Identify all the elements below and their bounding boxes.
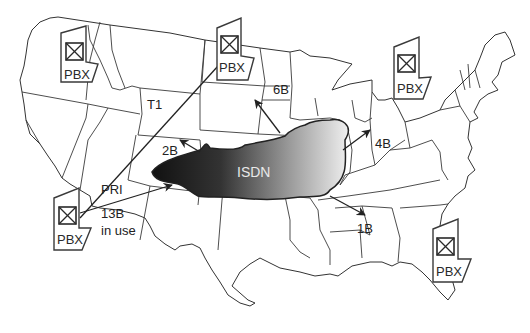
6b-label: 6B xyxy=(273,82,289,97)
us-map-canvas: ISDN T1 PRI 13B in use 2B 6B 4B 1B PBX P… xyxy=(0,0,530,333)
pbx-label: PBX xyxy=(219,60,245,75)
isdn-label: ISDN xyxy=(237,164,270,180)
2b-link-arrow xyxy=(180,140,200,152)
pri-label: PRI xyxy=(101,182,123,197)
pri-link-arrow xyxy=(80,185,172,213)
pbx-site-north-dakota: PBX xyxy=(217,18,254,80)
pbx-label: PBX xyxy=(436,264,462,279)
1b-label: 1B xyxy=(357,221,373,236)
pbx-site-pacific-northwest: PBX xyxy=(61,26,98,82)
pbx-site-california: PBX xyxy=(54,188,91,250)
isdn-cloud xyxy=(152,120,348,200)
pbx-label: PBX xyxy=(64,67,90,82)
pbx-site-great-lakes: PBX xyxy=(394,37,431,99)
1b-link-arrow xyxy=(330,196,365,215)
pbx-site-southeast: PBX xyxy=(433,219,471,282)
in-use-count-label: 13B xyxy=(101,206,124,221)
pbx-label: PBX xyxy=(57,232,83,247)
isdn-network-diagram: ISDN T1 PRI 13B in use 2B 6B 4B 1B PBX P… xyxy=(0,0,530,333)
t1-label: T1 xyxy=(147,97,162,112)
pbx-label: PBX xyxy=(397,81,423,96)
in-use-text-label: in use xyxy=(101,223,136,238)
2b-label: 2B xyxy=(162,143,178,158)
4b-label: 4B xyxy=(375,136,391,151)
